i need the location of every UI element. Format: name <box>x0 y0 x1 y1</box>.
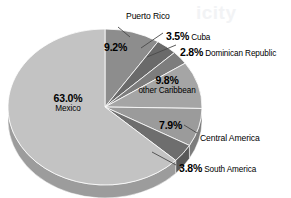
slice-label-puerto-rico-value: 9.2% <box>104 38 127 55</box>
slice-label-mexico: 63.0% Mexico <box>36 93 100 114</box>
slice-label-central-america-name: Central America <box>200 128 260 145</box>
slice-label-other-caribbean: 9.8% other Caribbean <box>126 75 208 96</box>
pie-chart-figure: icity Puerto Rico 9.2% 3.5%Cuba 2.8%Domi… <box>0 0 291 198</box>
slice-label-cuba: 3.5%Cuba <box>166 27 210 44</box>
slice-label-south-america: 3.8%South America <box>179 159 256 176</box>
slice-label-central-america-value: 7.9% <box>159 116 182 133</box>
slice-label-puerto-rico-name: Puerto Rico <box>126 6 170 23</box>
slice-label-dominican-republic: 2.8%Dominican Republic <box>180 43 276 60</box>
